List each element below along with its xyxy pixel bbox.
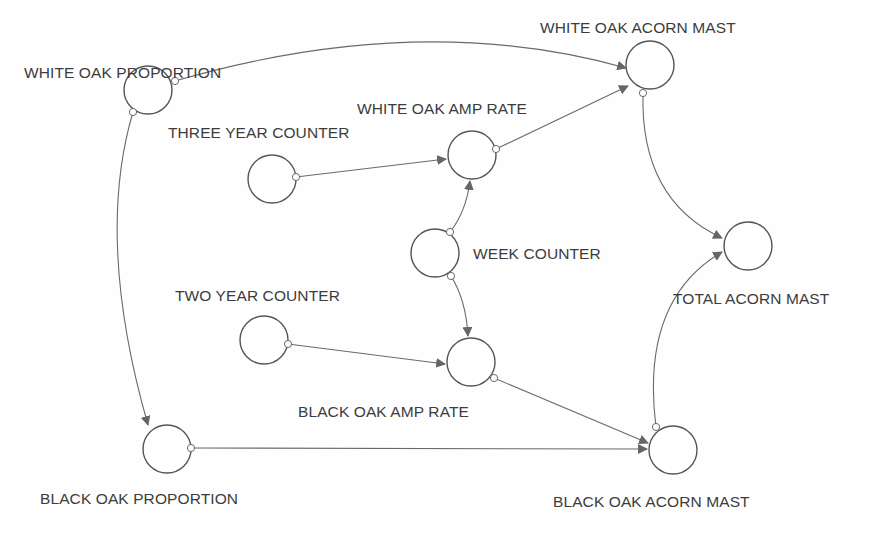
connector-origin-handle[interactable] [187,444,194,451]
connector-week-counter-to-black-oak-amp-rate[interactable] [451,276,468,336]
converter-total-acorn-mast[interactable] [724,222,772,270]
label-white-oak-acorn-mast: WHITE OAK ACORN MAST [540,19,736,37]
converter-black-oak-proportion[interactable] [143,425,191,473]
label-total-acorn-mast: TOTAL ACORN MAST [673,290,829,308]
connector-origin-handle[interactable] [639,89,646,96]
connector-origin-handle[interactable] [492,145,499,152]
label-white-oak-proportion: WHITE OAK PROPORTION [24,64,221,82]
connector-white-oak-proportion-to-black-oak-proportion[interactable] [117,112,148,425]
converter-white-oak-acorn-mast[interactable] [626,41,674,89]
connector-origin-handle[interactable] [490,374,497,381]
connector-white-oak-acorn-mast-to-total-acorn-mast[interactable] [643,93,722,238]
converter-week-counter[interactable] [411,229,459,277]
converter-white-oak-amp-rate[interactable] [448,131,496,179]
connector-origin-handle[interactable] [284,340,291,347]
label-week-counter: WEEK COUNTER [473,245,601,263]
connector-layer [0,0,882,557]
connector-two-year-counter-to-black-oak-amp-rate[interactable] [288,344,445,364]
connector-origin-handle[interactable] [652,423,659,430]
connector-black-oak-amp-rate-to-black-oak-acorn-mast[interactable] [494,378,648,443]
label-black-oak-proportion: BLACK OAK PROPORTION [40,490,238,508]
connector-white-oak-proportion-to-white-oak-acorn-mast[interactable] [175,42,626,81]
connector-black-oak-acorn-mast-to-total-acorn-mast[interactable] [653,252,722,427]
label-black-oak-amp-rate: BLACK OAK AMP RATE [298,403,469,421]
connector-origin-handle[interactable] [129,108,136,115]
converter-black-oak-acorn-mast[interactable] [649,426,697,474]
connector-origin-handle[interactable] [447,272,454,279]
converter-black-oak-amp-rate[interactable] [447,338,495,386]
connector-origin-handle[interactable] [446,228,453,235]
connector-origin-handle[interactable] [292,173,299,180]
converter-three-year-counter[interactable] [248,155,296,203]
label-black-oak-acorn-mast: BLACK OAK ACORN MAST [553,493,750,511]
label-white-oak-amp-rate: WHITE OAK AMP RATE [357,100,527,118]
diagram-canvas: WHITE OAK PROPORTIONWHITE OAK ACORN MAST… [0,0,882,557]
converter-two-year-counter[interactable] [240,316,288,364]
connector-three-year-counter-to-white-oak-amp-rate[interactable] [296,159,446,177]
connector-week-counter-to-white-oak-amp-rate[interactable] [450,181,470,232]
label-three-year-counter: THREE YEAR COUNTER [168,124,350,142]
label-two-year-counter: TWO YEAR COUNTER [175,287,340,305]
connector-black-oak-proportion-to-black-oak-acorn-mast[interactable] [191,448,647,449]
